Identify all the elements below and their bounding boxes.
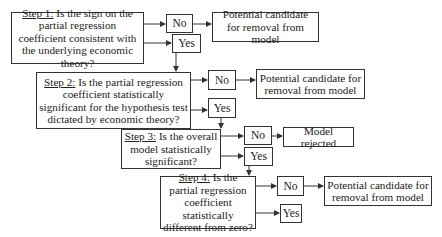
step-3-outcome-box: Model rejected [283, 127, 354, 147]
step-1-label: Step 1: [22, 7, 53, 19]
step-3-label: Step 3: [125, 130, 156, 142]
step-1-outcome-text: Potential candidate for removal from mod… [213, 8, 318, 45]
step-1-outcome-box: Potential candidate for removal from mod… [212, 12, 319, 42]
step-4-outcome-box: Potential candidate for removal from mod… [324, 176, 432, 206]
step-1-yes-label: Yes [178, 37, 195, 49]
step-1-yes-box: Yes [172, 34, 201, 53]
step-2-yes-label: Yes [214, 102, 231, 114]
step-2-question-box: Step 2: Is the partial regression coeffi… [36, 72, 191, 129]
step-4-label: Step 4: [179, 171, 210, 183]
step-2-no-label: No [215, 74, 229, 86]
step-3-no-label: No [251, 129, 265, 141]
step-3-question-box: Step 3: Is the overall model statistical… [121, 129, 221, 169]
step-3-no-box: No [244, 126, 272, 145]
step-1-no-label: No [172, 17, 186, 29]
step-3-yes-label: Yes [250, 150, 267, 162]
step-1-question-box: Step 1: Is the sign on the partial regre… [11, 12, 144, 64]
step-4-yes-box: Yes [280, 204, 302, 223]
step-4-yes-label: Yes [283, 207, 300, 219]
step-3-outcome-text: Model rejected [284, 125, 353, 150]
step-2-no-box: No [208, 70, 236, 90]
step-4-no-label: No [283, 180, 297, 192]
step-2-outcome-box: Potential candidate for removal from mod… [256, 69, 365, 99]
step-2-label: Step 2: [44, 76, 75, 88]
step-2-outcome-text: Potential candidate for removal from mod… [257, 72, 364, 97]
step-4-outcome-text: Potential candidate for removal from mod… [325, 179, 431, 204]
step-1-no-box: No [166, 14, 193, 33]
step-4-question-box: Step 4: Is the partial regression coeffi… [160, 176, 256, 229]
step-4-no-box: No [277, 176, 304, 196]
step-2-yes-box: Yes [208, 98, 236, 118]
step-3-yes-box: Yes [244, 147, 273, 166]
